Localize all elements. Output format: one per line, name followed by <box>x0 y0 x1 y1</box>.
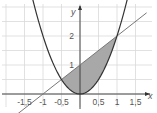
function-graph: -1,5-1-0,50,511,512 y x <box>0 0 157 113</box>
x-tick-label: -1 <box>39 97 47 107</box>
x-tick-label: -0,5 <box>54 97 69 107</box>
x-tick-label: 0,5 <box>93 97 105 107</box>
y-tick-label: 2 <box>69 31 74 41</box>
x-tick-label: -1,5 <box>17 97 32 107</box>
x-tick-label: 1 <box>115 97 120 107</box>
y-axis-label: y <box>70 7 76 17</box>
x-axis-label: x <box>147 91 153 101</box>
plot-area: -1,5-1-0,50,511,512 y x <box>0 0 157 113</box>
y-tick-label: 1 <box>69 60 74 70</box>
y-axis-arrow-icon <box>78 5 82 10</box>
x-tick-label: 1,5 <box>130 97 142 107</box>
